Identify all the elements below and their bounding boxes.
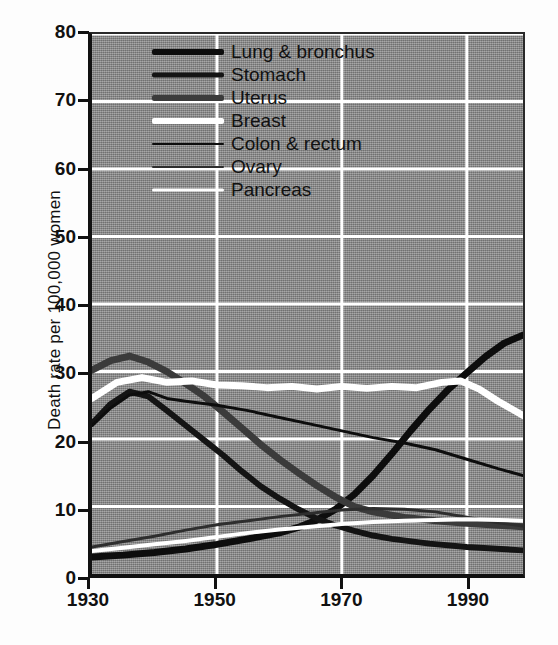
y-axis-tick-labels: 01020304050607080 [30, 0, 76, 645]
chart-legend: Lung & bronchusStomachUterusBreastColon … [152, 40, 375, 201]
y-tick-mark [78, 441, 89, 444]
legend-item: Breast [152, 109, 375, 132]
legend-item-label: Colon & rectum [231, 134, 362, 153]
x-tick-label: 1990 [447, 589, 489, 611]
x-tick-mark [87, 578, 90, 589]
y-tick-mark [78, 372, 89, 375]
legend-line-stomach [152, 68, 224, 82]
y-tick-label: 10 [32, 500, 76, 519]
legend-item-label: Uterus [231, 88, 287, 107]
legend-item: Uterus [152, 86, 375, 109]
y-tick-label: 80 [32, 22, 76, 41]
y-tick-label: 40 [32, 295, 76, 314]
x-tick-label: 1950 [194, 589, 236, 611]
y-tick-label: 0 [32, 568, 76, 587]
x-tick-label: 1970 [320, 589, 362, 611]
y-tick-label: 50 [32, 227, 76, 246]
y-tick-mark [78, 304, 89, 307]
legend-line-uterus [152, 91, 224, 105]
series-line [92, 378, 523, 416]
legend-line-pancreas [152, 183, 224, 197]
legend-item-label: Pancreas [231, 180, 311, 199]
x-tick-mark [214, 578, 217, 589]
legend-item-label: Breast [231, 111, 286, 130]
legend-item: Stomach [152, 63, 375, 86]
legend-item-label: Ovary [231, 157, 282, 176]
x-tick-label: 1930 [67, 589, 109, 611]
x-tick-mark [467, 578, 470, 589]
legend-item: Colon & rectum [152, 132, 375, 155]
legend-item-label: Lung & bronchus [231, 42, 375, 61]
legend-item: Pancreas [152, 178, 375, 201]
x-axis-tick-labels: 1930195019701990 [0, 589, 558, 619]
legend-item-label: Stomach [231, 65, 306, 84]
x-tick-mark [340, 578, 343, 589]
legend-item: Lung & bronchus [152, 40, 375, 63]
y-tick-mark [78, 168, 89, 171]
y-tick-label: 60 [32, 159, 76, 178]
legend-line-lung [152, 45, 224, 59]
chart-figure: Death rate per 100,000 women 01020304050… [0, 0, 558, 645]
legend-item: Ovary [152, 155, 375, 178]
y-tick-mark [78, 236, 89, 239]
y-tick-label: 30 [32, 363, 76, 382]
y-tick-label: 70 [32, 90, 76, 109]
y-tick-mark [78, 509, 89, 512]
y-tick-mark [78, 31, 89, 34]
y-tick-label: 20 [32, 432, 76, 451]
legend-line-colon [152, 137, 224, 151]
legend-line-breast [152, 114, 224, 128]
legend-line-ovary [152, 160, 224, 174]
y-tick-mark [78, 99, 89, 102]
